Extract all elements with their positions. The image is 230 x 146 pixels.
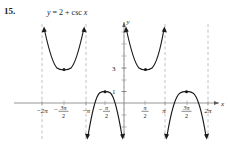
x-axis-arrow <box>214 101 219 105</box>
axis-group <box>14 22 219 138</box>
curve-branch-3 <box>127 30 164 70</box>
y-axis-label: y <box>126 18 131 26</box>
x-tick-label-neg2pi: −2π <box>36 107 48 115</box>
x-tick-label-neg3pi2: − 3π 2 <box>54 105 69 119</box>
arrow-b1-right <box>82 27 87 33</box>
x-tick-label-negpi2: − π 2 <box>98 105 110 119</box>
curve-group <box>45 30 207 136</box>
asymptote-group <box>42 24 208 140</box>
y-axis-arrow <box>122 22 126 27</box>
vertex-point-4 <box>185 90 188 93</box>
x-tick-label-negpi: −π <box>82 107 91 115</box>
graph-canvas: y x 3 1 −2π − 3π 2 −π − π 2 π 2 π 3π <box>0 0 230 146</box>
y-tick-label-3: 3 <box>112 65 116 73</box>
x-tick-label-2pi: 2π <box>204 107 212 115</box>
x-tick-label-3pi2-den: 2 <box>185 113 188 119</box>
x-tick-label-neg3pi2-sign: − <box>54 106 59 114</box>
x-axis-label: x <box>220 100 225 108</box>
x-tick-label-neg3pi2-num: 3π <box>59 105 67 111</box>
vertex-point-2 <box>104 90 107 93</box>
x-tick-label-3pi2: 3π 2 <box>182 105 192 119</box>
x-tick-label-pi: π <box>162 107 166 115</box>
arrow-b1-left <box>42 27 47 33</box>
x-tick-label-3pi2-num: 3π <box>182 105 190 111</box>
x-tick-label-negpi2-den: 2 <box>105 113 108 119</box>
vertex-point-1 <box>63 68 66 71</box>
vertex-points <box>63 68 189 93</box>
x-tick-label-pi2-num: π <box>143 105 147 111</box>
x-tick-label-pi2-den: 2 <box>144 113 147 119</box>
x-tick-label-negpi2-num: π <box>105 105 109 111</box>
arrow-b4-right <box>204 133 209 139</box>
curve-branch-1 <box>45 30 84 70</box>
x-tick-label-negpi2-sign: − <box>98 106 103 114</box>
x-tick-label-neg3pi2-den: 2 <box>62 113 65 119</box>
arrow-b3-right <box>162 27 167 33</box>
curve-arrowheads <box>42 27 210 140</box>
figure-container: 15. y = 2 + csc x <box>0 0 230 146</box>
x-tick-label-pi2: π 2 <box>142 105 149 119</box>
vertex-point-3 <box>144 68 147 71</box>
y-tick-label-1: 1 <box>112 88 116 96</box>
